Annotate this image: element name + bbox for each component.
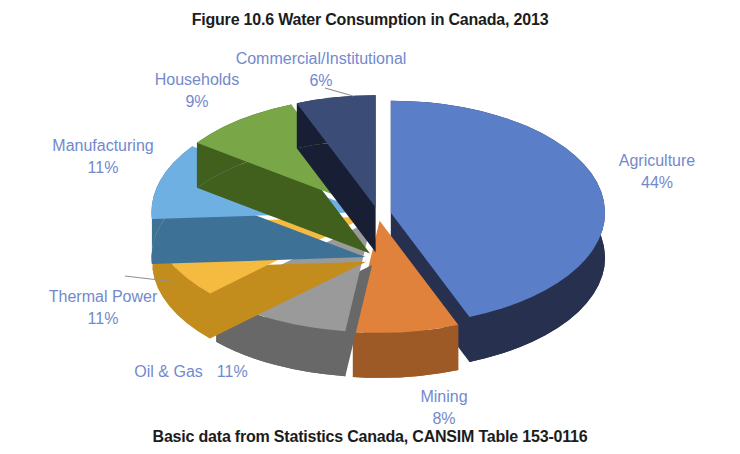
label-households: Households 9% [155, 69, 240, 113]
label-agriculture-pct: 44% [619, 172, 695, 194]
label-mining-pct: 8% [420, 408, 467, 430]
pie-slices [151, 95, 605, 377]
label-thermal-power: Thermal Power 11% [49, 286, 157, 330]
label-oil-gas-name: Oil & Gas [134, 363, 202, 380]
figure-water-consumption: Figure 10.6 Water Consumption in Canada,… [0, 0, 740, 454]
label-agriculture-name: Agriculture [619, 150, 695, 172]
label-commercial-institutional-name: Commercial/Institutional [236, 48, 407, 70]
label-households-name: Households [155, 69, 240, 91]
label-commercial-institutional: Commercial/Institutional 6% [236, 48, 407, 92]
label-oil-gas: Oil & Gas11% [134, 361, 247, 383]
label-households-pct: 9% [155, 91, 240, 113]
label-thermal-power-name: Thermal Power [49, 286, 157, 308]
label-agriculture: Agriculture 44% [619, 150, 695, 194]
label-mining: Mining 8% [420, 386, 467, 430]
label-manufacturing-pct: 11% [52, 157, 153, 179]
pie-slice-rim-mining [353, 325, 459, 378]
label-mining-name: Mining [420, 386, 467, 408]
label-manufacturing: Manufacturing 11% [52, 135, 153, 179]
label-commercial-institutional-pct: 6% [236, 70, 407, 92]
label-oil-gas-pct: 11% [217, 363, 248, 380]
label-thermal-power-pct: 11% [49, 308, 157, 330]
label-manufacturing-name: Manufacturing [52, 135, 153, 157]
source-note: Basic data from Statistics Canada, CANSI… [0, 428, 740, 446]
